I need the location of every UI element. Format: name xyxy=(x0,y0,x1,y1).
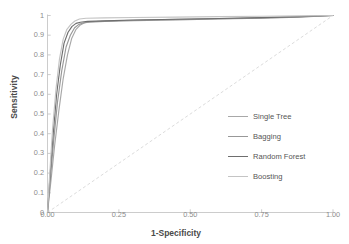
legend-label: Bagging xyxy=(253,132,281,141)
x-tick-label: 0.75 xyxy=(242,211,282,218)
legend-item[interactable]: Single Tree xyxy=(228,106,349,126)
legend-item[interactable]: Random Forest xyxy=(228,146,349,166)
chart-legend: Single TreeBaggingRandom ForestBoosting xyxy=(228,106,349,186)
x-tick-label: 0.25 xyxy=(99,211,139,218)
legend-swatch xyxy=(228,116,248,117)
x-tick-label: 1.00 xyxy=(313,211,349,218)
legend-swatch xyxy=(228,136,248,137)
y-tick-label: 0.4 xyxy=(18,130,44,137)
y-tick-label: 0.2 xyxy=(18,169,44,176)
legend-label: Random Forest xyxy=(253,152,305,161)
legend-label: Boosting xyxy=(253,172,283,181)
y-tick-label: 0.5 xyxy=(18,110,44,117)
legend-swatch xyxy=(228,156,248,157)
y-tick-label: 0.7 xyxy=(18,71,44,78)
x-tick-label: 0.00 xyxy=(28,211,68,218)
y-tick-label: 0.9 xyxy=(18,31,44,38)
x-axis-tick-labels: 0.000.250.500.751.00 xyxy=(0,211,349,225)
y-tick-label: 0.8 xyxy=(18,51,44,58)
x-axis-title: 1-Specificity xyxy=(47,228,305,238)
legend-item[interactable]: Bagging xyxy=(228,126,349,146)
y-axis-title: Sensitivity xyxy=(9,57,19,137)
y-tick-label: 1 xyxy=(18,12,44,19)
y-tick-label: 0.1 xyxy=(18,189,44,196)
roc-chart: 00.10.20.30.40.50.60.70.80.91 0.000.250.… xyxy=(0,0,349,244)
y-tick-label: 0.3 xyxy=(18,149,44,156)
x-tick-label: 0.50 xyxy=(170,211,210,218)
legend-item[interactable]: Boosting xyxy=(228,166,349,186)
legend-swatch xyxy=(228,176,248,177)
y-tick-label: 0.6 xyxy=(18,90,44,97)
legend-label: Single Tree xyxy=(253,112,291,121)
